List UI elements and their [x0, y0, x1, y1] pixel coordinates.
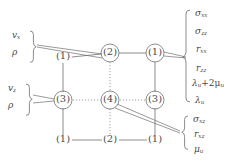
label-rho-lower: ρ — [8, 101, 13, 110]
label-sigma-xz: σxz — [193, 115, 205, 125]
pointer-lower-left-wedge-upper — [33, 95, 54, 99]
label-mu-u-subscript: u — [200, 148, 204, 154]
label-2mu-subscript: u — [220, 82, 224, 88]
label-r-xz: rxz — [194, 130, 204, 140]
pointer-lower-left-wedge-lower — [33, 101, 54, 103]
label-sigma-xz-subscript: xz — [199, 118, 205, 124]
label-r-zz: rzz — [196, 64, 206, 74]
node-label-top-mid[interactable]: (2) — [99, 47, 121, 57]
node-label-bottom-right[interactable]: (1) — [144, 134, 166, 144]
label-plus-2mu-operator: +2μ — [201, 78, 220, 88]
node-label-mid-center[interactable]: (4) — [99, 94, 121, 104]
brace-lower-right — [182, 116, 188, 149]
brace-lower-left — [26, 84, 32, 115]
label-rho-upper: ρ — [12, 48, 17, 57]
node-label-bottom-mid[interactable]: (2) — [99, 134, 121, 144]
node-label-mid-left[interactable]: (3) — [52, 94, 74, 104]
label-sigma-xx-subscript: xx — [201, 12, 207, 18]
node-label-top-left[interactable]: (1) — [52, 51, 74, 61]
label-sigma-zz-subscript: zz — [201, 30, 207, 36]
label-rho-lower-symbol: ρ — [8, 100, 13, 110]
node-label-mid-right[interactable]: (3) — [144, 94, 166, 104]
label-mu-u: μu — [194, 145, 203, 155]
label-r-xx: rxx — [196, 45, 207, 55]
label-v-z: vz — [8, 84, 16, 94]
node-label-top-right[interactable]: (1) — [144, 47, 166, 57]
pointer-lower-right-wedge-lower — [115, 108, 180, 133]
label-v-z-subscript: z — [13, 87, 16, 93]
label-r-xz-subscript: xz — [198, 133, 204, 139]
brace-upper-right — [183, 10, 190, 102]
figure-canvas: (1) (2) (1) (3) (4) (3) (1) (2) (1) vx ρ… — [0, 0, 226, 163]
label-sigma-zz: σzz — [195, 27, 207, 37]
label-rho-upper-symbol: ρ — [12, 47, 17, 57]
label-v-x: vx — [12, 31, 20, 41]
label-v-x-subscript: x — [17, 34, 20, 40]
label-r-zz-subscript: zz — [200, 67, 206, 73]
label-lambda-u-subscript: u — [201, 99, 205, 105]
label-sigma-xx: σxx — [195, 9, 207, 19]
pointer-lower-right-wedge-upper — [117, 104, 180, 131]
brace-upper-left — [30, 31, 36, 62]
node-label-bottom-left[interactable]: (1) — [52, 134, 74, 144]
label-r-xx-subscript: xx — [200, 48, 206, 54]
label-lambda-u: λu — [195, 96, 204, 106]
label-lambda-plus-2mu: λu+2μu — [192, 79, 224, 89]
